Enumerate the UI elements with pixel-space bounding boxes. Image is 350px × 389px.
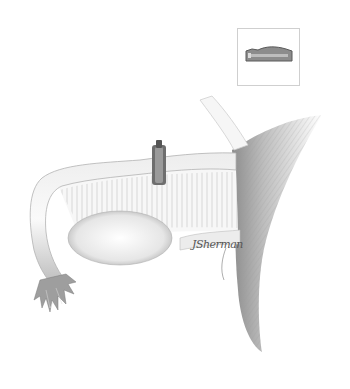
uterus: [232, 115, 322, 352]
round-ligament: [200, 96, 248, 150]
tubal-clip: [152, 140, 166, 185]
fimbriae: [34, 274, 76, 312]
clip-detail-inset: [237, 28, 300, 86]
clip-detail-icon: [238, 29, 299, 85]
ovary: [68, 211, 172, 265]
artist-signature: JSherman: [192, 238, 243, 251]
signature-flourish: [222, 248, 226, 280]
